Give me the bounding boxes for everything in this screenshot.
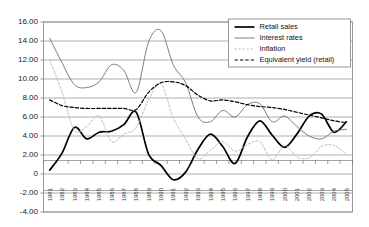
x-axis-tick-label: 1998 xyxy=(257,187,263,201)
y-axis-tick-label: 0 xyxy=(34,169,39,178)
x-axis-tick-label: 1984 xyxy=(84,187,90,201)
y-axis-tick-label: 14.00 xyxy=(18,36,39,45)
x-axis-tick-label: 1982 xyxy=(59,187,65,201)
y-axis-tick-label: 2.00 xyxy=(22,150,38,159)
x-axis-tick-label: 1997 xyxy=(245,187,251,201)
x-axis-tick-label: 1986 xyxy=(109,187,115,201)
x-axis-tickmarks xyxy=(44,161,353,191)
x-axis-tick-label: 1996 xyxy=(232,187,238,201)
x-axis-tick-labels: 1981198219831984198519861987198819891990… xyxy=(47,187,350,201)
legend-label: Equivalent yield (retail) xyxy=(260,55,335,64)
x-axis-tick-label: 1990 xyxy=(158,187,164,201)
x-axis-tick-label: 1992 xyxy=(183,187,189,201)
x-axis-tick-label: 1999 xyxy=(269,187,275,201)
x-axis-tick-label: 1985 xyxy=(96,187,102,201)
x-axis-tick-label: 1983 xyxy=(72,187,78,201)
y-axis-tick-label: -4.00 xyxy=(20,207,39,216)
legend-label: Interest rates xyxy=(260,33,303,42)
y-axis-tick-label: 6.00 xyxy=(22,112,38,121)
x-axis-tick-label: 2001 xyxy=(294,187,300,201)
chart-legend: Retail salesInterest ratesInflationEquiv… xyxy=(229,19,351,67)
y-axis-tick-label: 8.00 xyxy=(22,93,38,102)
x-axis-tick-label: 1987 xyxy=(121,187,127,201)
y-axis-tick-label: -2.00 xyxy=(20,188,39,197)
x-axis-tick-label: 2004 xyxy=(331,187,337,201)
series-line-inflation xyxy=(50,60,347,160)
x-axis-tick-label: 2000 xyxy=(282,187,288,201)
x-axis-tick-label: 2002 xyxy=(306,187,312,201)
line-chart: -4.00-2.0002.004.006.008.0010.0012.0014.… xyxy=(0,0,369,227)
chart-container: -4.00-2.0002.004.006.008.0010.0012.0014.… xyxy=(0,0,369,227)
x-axis-tick-label: 1994 xyxy=(208,187,214,201)
x-axis-tick-label: 1991 xyxy=(170,187,176,201)
legend-label: Inflation xyxy=(260,44,286,53)
series-line-retail-sales xyxy=(50,111,347,180)
y-axis-tick-label: 10.00 xyxy=(18,74,39,83)
x-axis-tick-label: 1988 xyxy=(133,187,139,201)
x-axis-tick-label: 1981 xyxy=(47,187,53,201)
y-axis-tick-label: 4.00 xyxy=(22,131,38,140)
y-axis-tick-label: 16.00 xyxy=(18,17,39,26)
x-axis-tick-label: 2005 xyxy=(344,187,350,201)
x-axis-tick-label: 1993 xyxy=(195,187,201,201)
x-axis-tick-label: 1995 xyxy=(220,187,226,201)
x-axis-tick-label: 2003 xyxy=(319,187,325,201)
legend-label: Retail sales xyxy=(260,22,299,31)
y-axis-tick-label: 12.00 xyxy=(18,55,39,64)
y-axis-tick-labels: -4.00-2.0002.004.006.008.0010.0012.0014.… xyxy=(18,17,39,216)
x-axis-tick-label: 1989 xyxy=(146,187,152,201)
